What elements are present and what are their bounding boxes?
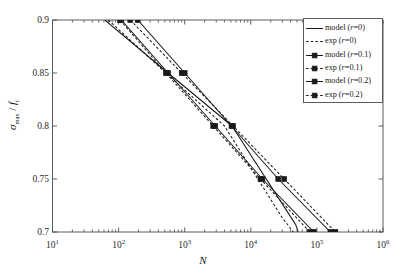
legend-label: exp (r=0.1) bbox=[325, 63, 362, 72]
y-axis-label: σmax / ft bbox=[6, 80, 20, 150]
legend-item[interactable]: exp (r=0) bbox=[304, 34, 382, 47]
y-tick-label: 0.85 bbox=[9, 68, 49, 78]
x-tick-exponent: 6 bbox=[386, 238, 389, 245]
y-tick-label: 0.9 bbox=[9, 15, 49, 25]
y-axis-sigma-subscript: max bbox=[13, 114, 20, 125]
legend-label: model (r=0) bbox=[325, 23, 365, 32]
legend-label-suffix: =0.2) bbox=[353, 76, 371, 85]
legend-label: model (r=0.2) bbox=[325, 76, 371, 85]
legend-item[interactable]: model (r=0.2) bbox=[304, 74, 382, 87]
legend-label-prefix: exp ( bbox=[325, 63, 342, 72]
legend-key-icon bbox=[304, 88, 325, 101]
legend-label: exp (r=0) bbox=[325, 36, 356, 45]
legend-label-prefix: model ( bbox=[325, 76, 350, 85]
x-tick-label: 101 bbox=[33, 237, 73, 250]
x-tick-mantissa: 10 bbox=[46, 240, 56, 250]
y-tick-label: 0.7 bbox=[9, 227, 49, 237]
legend-label-suffix: =0.2) bbox=[345, 90, 363, 99]
legend-label: exp (r=0.2) bbox=[325, 90, 362, 99]
x-tick-exponent: 1 bbox=[56, 238, 59, 245]
x-tick-mantissa: 10 bbox=[112, 240, 122, 250]
legend-label-suffix: =0.1) bbox=[345, 63, 363, 72]
legend-label-prefix: exp ( bbox=[325, 36, 342, 45]
x-tick-exponent: 3 bbox=[188, 238, 191, 245]
x-tick-label: 103 bbox=[165, 237, 205, 250]
x-tick-label: 102 bbox=[99, 237, 139, 250]
legend-item[interactable]: model (r=0) bbox=[304, 21, 382, 34]
y-tick-label: 0.75 bbox=[9, 174, 49, 184]
legend-key-icon bbox=[304, 74, 325, 87]
x-tick-exponent: 4 bbox=[254, 238, 257, 245]
x-tick-mantissa: 10 bbox=[178, 240, 188, 250]
x-tick-label: 105 bbox=[297, 237, 337, 250]
x-axis-label: N bbox=[0, 254, 406, 266]
y-axis-f: f bbox=[6, 102, 18, 105]
x-tick-label: 106 bbox=[363, 237, 403, 250]
legend-item[interactable]: model (r=0.1) bbox=[304, 48, 382, 61]
x-tick-mantissa: 10 bbox=[310, 240, 320, 250]
x-axis-label-text: N bbox=[199, 254, 206, 266]
legend-key-icon bbox=[304, 21, 325, 34]
chart-legend: model (r=0)exp (r=0)model (r=0.1)exp (r=… bbox=[303, 18, 383, 103]
y-axis-f-subscript: t bbox=[13, 100, 20, 102]
x-tick-exponent: 2 bbox=[122, 238, 125, 245]
legend-label-prefix: exp ( bbox=[325, 90, 342, 99]
legend-label: model (r=0.1) bbox=[325, 50, 371, 59]
y-axis-sigma: σ bbox=[6, 125, 18, 130]
legend-label-prefix: model ( bbox=[325, 23, 350, 32]
x-tick-mantissa: 10 bbox=[244, 240, 254, 250]
figure-container: 0.70.750.80.850.9 101102103104105106 N σ… bbox=[0, 0, 406, 275]
legend-key-icon bbox=[304, 61, 325, 74]
legend-item[interactable]: exp (r=0.1) bbox=[304, 61, 382, 74]
legend-key-icon bbox=[304, 34, 325, 47]
legend-label-suffix: =0) bbox=[353, 23, 364, 32]
legend-key-icon bbox=[304, 48, 325, 61]
legend-label-suffix: =0) bbox=[345, 36, 356, 45]
y-axis-divider: / bbox=[6, 105, 18, 114]
x-tick-exponent: 5 bbox=[320, 238, 323, 245]
x-tick-label: 104 bbox=[231, 237, 271, 250]
legend-label-prefix: model ( bbox=[325, 50, 350, 59]
x-tick-mantissa: 10 bbox=[377, 240, 387, 250]
legend-label-suffix: =0.1) bbox=[353, 50, 371, 59]
legend-item[interactable]: exp (r=0.2) bbox=[304, 87, 382, 100]
